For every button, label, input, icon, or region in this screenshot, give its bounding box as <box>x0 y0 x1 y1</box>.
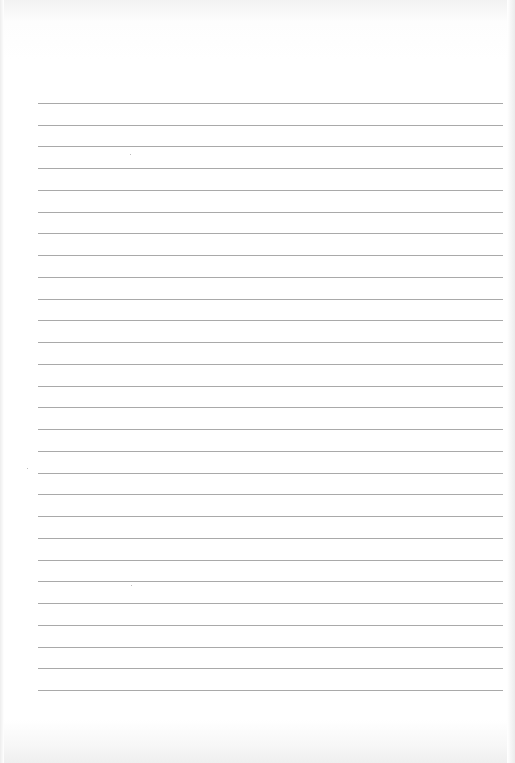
ruled-line <box>38 625 503 626</box>
ruled-line <box>38 690 503 691</box>
ruled-line <box>38 560 503 561</box>
ruled-line <box>38 451 503 452</box>
page-right-edge <box>507 0 515 763</box>
ruled-line <box>38 668 503 669</box>
ruled-line <box>38 190 503 191</box>
paper-speck <box>130 154 131 155</box>
ruled-line <box>38 320 503 321</box>
ruled-line <box>38 407 503 408</box>
ruled-line <box>38 233 503 234</box>
ruled-line <box>38 146 503 147</box>
page-left-edge <box>0 0 4 763</box>
ruled-line <box>38 647 503 648</box>
ruled-line <box>38 299 503 300</box>
ruled-line <box>38 538 503 539</box>
ruled-line <box>38 386 503 387</box>
paper-speck <box>27 468 28 469</box>
lined-paper-page <box>0 0 515 763</box>
ruled-line <box>38 516 503 517</box>
ruled-line <box>38 473 503 474</box>
ruled-line <box>38 103 503 104</box>
ruled-line <box>38 342 503 343</box>
ruled-line <box>38 212 503 213</box>
ruled-line <box>38 494 503 495</box>
ruled-line <box>38 364 503 365</box>
ruled-line <box>38 277 503 278</box>
ruled-line <box>38 581 503 582</box>
ruled-line <box>38 255 503 256</box>
paper-speck <box>131 585 132 586</box>
ruled-line <box>38 168 503 169</box>
ruled-line <box>38 603 503 604</box>
ruled-line <box>38 429 503 430</box>
ruled-line <box>38 125 503 126</box>
